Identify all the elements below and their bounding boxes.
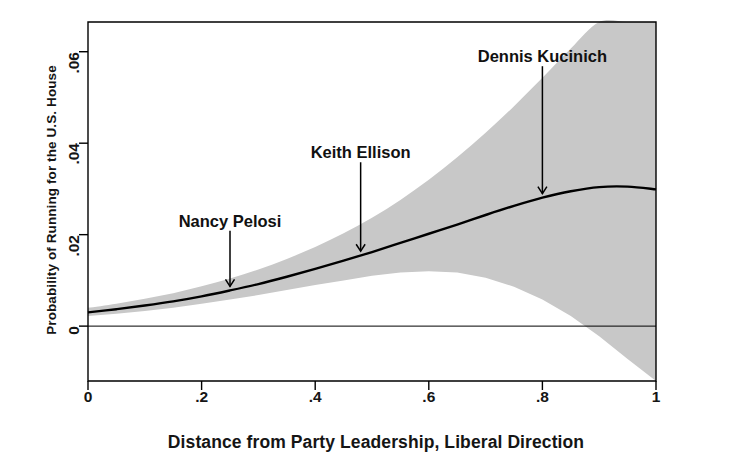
annotation-label: Nancy Pelosi bbox=[179, 212, 282, 231]
x-tick-label: .2 bbox=[195, 388, 208, 406]
y-tick-label: .06 bbox=[65, 52, 83, 74]
y-tick-label: 0 bbox=[65, 326, 83, 335]
x-tick-label: .4 bbox=[309, 388, 322, 406]
annotation-label: Keith Ellison bbox=[311, 143, 411, 162]
y-tick-label: .04 bbox=[65, 143, 83, 165]
y-axis-title: Probability of Running for the U.S. Hous… bbox=[40, 0, 64, 400]
x-tick-label: .8 bbox=[536, 388, 549, 406]
x-tick-label: .6 bbox=[422, 388, 435, 406]
plot-canvas bbox=[0, 0, 752, 464]
x-tick-label: 0 bbox=[84, 388, 93, 406]
x-axis-title: Distance from Party Leadership, Liberal … bbox=[0, 432, 752, 453]
y-tick-label: .02 bbox=[65, 235, 83, 257]
annotation-label: Dennis Kucinich bbox=[478, 47, 607, 66]
y-axis-title-wrapper: Probability of Running for the U.S. Hous… bbox=[40, 0, 64, 400]
chart-figure: Distance from Party Leadership, Liberal … bbox=[0, 0, 752, 464]
x-tick-label: 1 bbox=[652, 388, 661, 406]
confidence-band bbox=[88, 20, 656, 381]
